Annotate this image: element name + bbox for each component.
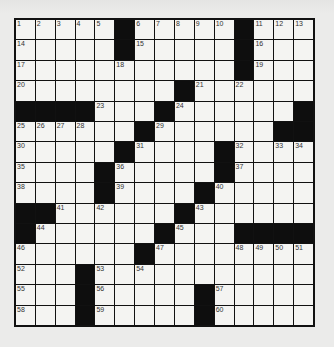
grid-cell[interactable] xyxy=(36,142,55,161)
grid-cell[interactable] xyxy=(135,204,154,223)
grid-cell[interactable] xyxy=(135,306,154,325)
grid-cell[interactable]: 37 xyxy=(235,163,254,182)
grid-cell[interactable] xyxy=(274,40,293,59)
grid-cell[interactable]: 41 xyxy=(56,204,75,223)
grid-cell[interactable]: 12 xyxy=(274,20,293,39)
grid-cell[interactable]: 19 xyxy=(254,61,273,80)
grid-cell[interactable] xyxy=(115,122,134,141)
grid-cell[interactable] xyxy=(215,265,234,284)
grid-cell[interactable] xyxy=(254,204,273,223)
grid-cell[interactable]: 40 xyxy=(215,183,234,202)
grid-cell[interactable]: 56 xyxy=(95,285,114,304)
grid-cell[interactable]: 42 xyxy=(95,204,114,223)
grid-cell[interactable] xyxy=(175,285,194,304)
grid-cell[interactable]: 36 xyxy=(115,163,134,182)
grid-cell[interactable] xyxy=(175,306,194,325)
grid-cell[interactable] xyxy=(274,81,293,100)
grid-cell[interactable] xyxy=(254,306,273,325)
grid-cell[interactable] xyxy=(95,122,114,141)
grid-cell[interactable] xyxy=(95,244,114,263)
grid-cell[interactable]: 2 xyxy=(36,20,55,39)
grid-cell[interactable] xyxy=(254,142,273,161)
grid-cell[interactable] xyxy=(274,102,293,121)
grid-cell[interactable] xyxy=(36,40,55,59)
grid-cell[interactable] xyxy=(235,204,254,223)
grid-cell[interactable] xyxy=(56,142,75,161)
grid-cell[interactable] xyxy=(294,204,313,223)
grid-cell[interactable]: 8 xyxy=(175,20,194,39)
grid-cell[interactable] xyxy=(155,40,174,59)
grid-cell[interactable]: 21 xyxy=(195,81,214,100)
grid-cell[interactable] xyxy=(274,204,293,223)
grid-cell[interactable] xyxy=(95,224,114,243)
grid-cell[interactable]: 30 xyxy=(16,142,35,161)
grid-cell[interactable]: 31 xyxy=(135,142,154,161)
grid-cell[interactable] xyxy=(195,265,214,284)
grid-cell[interactable]: 48 xyxy=(235,244,254,263)
grid-cell[interactable]: 60 xyxy=(215,306,234,325)
grid-cell[interactable] xyxy=(155,204,174,223)
grid-cell[interactable]: 15 xyxy=(135,40,154,59)
grid-cell[interactable]: 14 xyxy=(16,40,35,59)
grid-cell[interactable] xyxy=(195,142,214,161)
grid-cell[interactable]: 58 xyxy=(16,306,35,325)
grid-cell[interactable] xyxy=(175,61,194,80)
grid-cell[interactable] xyxy=(215,224,234,243)
grid-cell[interactable] xyxy=(294,306,313,325)
grid-cell[interactable] xyxy=(215,81,234,100)
grid-cell[interactable] xyxy=(56,40,75,59)
grid-cell[interactable] xyxy=(95,81,114,100)
grid-cell[interactable] xyxy=(155,306,174,325)
grid-cell[interactable]: 47 xyxy=(155,244,174,263)
grid-cell[interactable] xyxy=(235,122,254,141)
grid-cell[interactable] xyxy=(135,81,154,100)
grid-cell[interactable]: 7 xyxy=(155,20,174,39)
grid-cell[interactable] xyxy=(155,163,174,182)
grid-cell[interactable] xyxy=(235,265,254,284)
grid-cell[interactable] xyxy=(254,183,273,202)
grid-cell[interactable] xyxy=(56,61,75,80)
grid-cell[interactable]: 33 xyxy=(274,142,293,161)
grid-cell[interactable] xyxy=(294,265,313,284)
grid-cell[interactable]: 53 xyxy=(95,265,114,284)
grid-cell[interactable] xyxy=(294,61,313,80)
grid-cell[interactable] xyxy=(235,306,254,325)
grid-cell[interactable] xyxy=(215,40,234,59)
grid-cell[interactable]: 25 xyxy=(16,122,35,141)
grid-cell[interactable] xyxy=(254,265,273,284)
grid-cell[interactable] xyxy=(195,122,214,141)
grid-cell[interactable]: 35 xyxy=(16,163,35,182)
grid-cell[interactable] xyxy=(36,265,55,284)
grid-cell[interactable]: 54 xyxy=(135,265,154,284)
grid-cell[interactable]: 38 xyxy=(16,183,35,202)
grid-cell[interactable] xyxy=(274,285,293,304)
grid-cell[interactable] xyxy=(175,183,194,202)
grid-cell[interactable] xyxy=(135,285,154,304)
grid-cell[interactable]: 24 xyxy=(175,102,194,121)
grid-cell[interactable]: 10 xyxy=(215,20,234,39)
grid-cell[interactable] xyxy=(294,163,313,182)
grid-cell[interactable]: 46 xyxy=(16,244,35,263)
grid-cell[interactable] xyxy=(115,306,134,325)
grid-cell[interactable]: 50 xyxy=(274,244,293,263)
grid-cell[interactable] xyxy=(294,81,313,100)
grid-cell[interactable] xyxy=(254,163,273,182)
grid-cell[interactable]: 32 xyxy=(235,142,254,161)
grid-cell[interactable] xyxy=(195,244,214,263)
grid-cell[interactable] xyxy=(135,163,154,182)
grid-cell[interactable] xyxy=(76,81,95,100)
grid-cell[interactable]: 16 xyxy=(254,40,273,59)
grid-cell[interactable] xyxy=(175,265,194,284)
grid-cell[interactable] xyxy=(254,122,273,141)
grid-cell[interactable] xyxy=(115,102,134,121)
grid-cell[interactable] xyxy=(56,183,75,202)
grid-cell[interactable] xyxy=(195,163,214,182)
grid-cell[interactable] xyxy=(135,102,154,121)
grid-cell[interactable] xyxy=(155,81,174,100)
grid-cell[interactable]: 3 xyxy=(56,20,75,39)
grid-cell[interactable] xyxy=(155,285,174,304)
grid-cell[interactable]: 34 xyxy=(294,142,313,161)
grid-cell[interactable] xyxy=(155,183,174,202)
grid-cell[interactable] xyxy=(195,40,214,59)
grid-cell[interactable] xyxy=(195,102,214,121)
